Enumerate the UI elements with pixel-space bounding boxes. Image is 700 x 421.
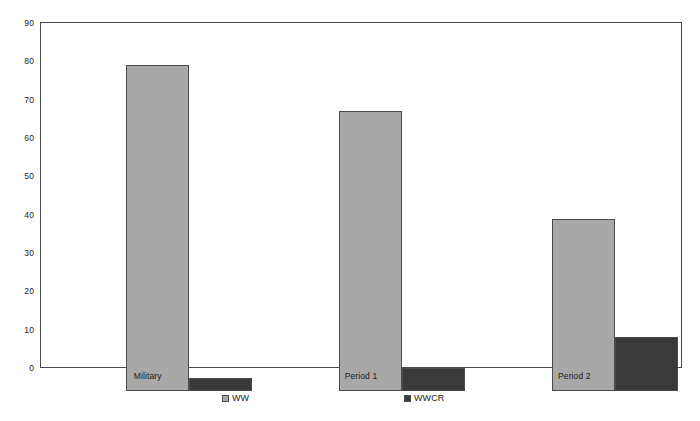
plot-area <box>40 22 682 368</box>
bars-layer <box>82 46 700 391</box>
bar-chart: 0102030405060708090 MilitaryPeriod 1Peri… <box>0 0 700 421</box>
legend-label: WWCR <box>414 393 444 403</box>
y-axis-tick-label: 50 <box>24 171 34 181</box>
y-axis-tick-label: 0 <box>29 363 34 373</box>
bar-ww-military <box>126 65 189 391</box>
y-axis-tick-label: 80 <box>24 56 34 66</box>
legend-entry-ww: WW <box>222 393 249 403</box>
x-axis: MilitaryPeriod 1Period 2 <box>41 371 681 387</box>
legend-swatch-icon <box>222 395 229 402</box>
x-axis-category-label: Period 2 <box>558 371 590 381</box>
x-axis-category-label: Period 1 <box>345 371 377 381</box>
y-axis-tick-label: 10 <box>24 325 34 335</box>
bar-ww-period-1 <box>339 111 402 391</box>
legend-swatch-icon <box>404 395 411 402</box>
x-axis-category-label: Military <box>134 371 162 381</box>
legend-label: WW <box>232 393 249 403</box>
y-axis-tick-label: 90 <box>24 18 34 28</box>
y-axis-tick-label: 70 <box>24 95 34 105</box>
y-axis-tick-label: 20 <box>24 286 34 296</box>
y-axis-tick-label: 40 <box>24 210 34 220</box>
y-axis-tick-label: 30 <box>24 248 34 258</box>
chart-legend: WWWWCR <box>0 393 700 409</box>
y-axis: 0102030405060708090 <box>0 22 40 368</box>
bar-ww-period-2 <box>552 219 615 392</box>
y-axis-tick-label: 60 <box>24 133 34 143</box>
legend-entry-wwcr: WWCR <box>404 393 444 403</box>
